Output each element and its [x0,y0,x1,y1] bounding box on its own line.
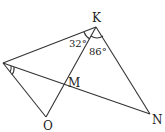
geometry-diagram: K M O N 32° 86° [0,0,165,132]
angle-label-32: 32° [69,38,87,49]
angle-label-86: 86° [89,46,107,57]
segment-kn [96,27,150,114]
angle-arc-a-inner [10,66,11,72]
label-o: O [43,119,53,132]
label-k: K [92,11,102,25]
label-m: M [68,76,80,90]
segment-ao [3,63,46,117]
angle-arc-a [12,67,14,75]
label-n: N [152,113,163,127]
